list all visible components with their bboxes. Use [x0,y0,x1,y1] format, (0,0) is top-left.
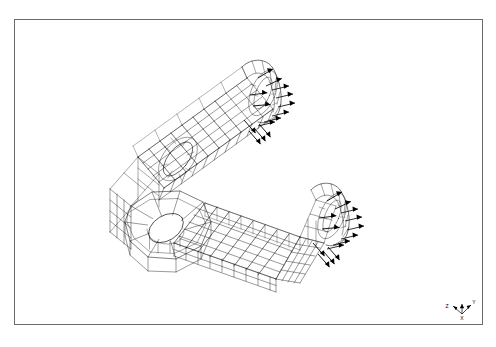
left-web [110,157,159,249]
coordinate-triad: Z Y X [445,299,476,321]
triad-y-label: Y [472,299,476,305]
upper-diagonal-arm [133,67,273,200]
mesh-wireframe [110,60,352,292]
fea-mesh-figure: Z Y X [0,0,496,347]
mesh-canvas: Z Y X [0,0,496,347]
lower-arm [174,203,300,292]
triad-x-label: X [460,315,464,321]
lower-right-arm [276,200,336,283]
mesh-diagonals [138,101,289,275]
figure-page: Z Y X [0,0,496,347]
triad-z-label: Z [445,303,448,309]
